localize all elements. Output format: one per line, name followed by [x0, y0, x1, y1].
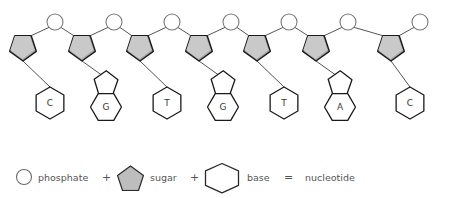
base-shape: C: [36, 87, 64, 119]
phosphate-circle: [106, 14, 122, 30]
legend-phosphate-icon: [17, 170, 32, 185]
legend-base-icon: [206, 164, 239, 193]
phosphate-circle: [223, 14, 239, 30]
legend-sugar-label: sugar: [150, 172, 177, 183]
base-letter: A: [337, 102, 344, 112]
base-letter: T: [280, 98, 287, 108]
base-shape: T: [153, 87, 181, 119]
nucleotide-unit: G: [69, 14, 132, 120]
legend-plus-two: +: [190, 171, 199, 184]
nucleotide-unit: C: [10, 14, 74, 119]
bond-sugar-to-base: [391, 61, 410, 87]
base-letter: C: [47, 98, 53, 108]
bond-phosphate-to-sugar: [61, 27, 74, 35]
base-shape: C: [396, 87, 424, 119]
nucleotide-chain-diagram: CGTGTAC phosphate + sugar + base = nucle…: [0, 0, 452, 198]
base-pentagon-ring: [211, 71, 235, 94]
phosphate-circle: [412, 14, 428, 30]
bond-phosphate-to-sugar: [237, 27, 249, 35]
phosphate-circle: [340, 14, 356, 30]
bond-sugar-to-phosphate: [399, 27, 414, 35]
nucleotide-unit: T: [127, 14, 191, 119]
legend-nucleotide-label: nucleotide: [305, 172, 355, 183]
base-pentagon-ring: [94, 71, 118, 94]
base-shape: T: [270, 87, 298, 119]
base-pentagon-ring: [328, 71, 352, 94]
bond-phosphate-to-sugar: [120, 27, 132, 35]
base-letter: C: [407, 98, 413, 108]
bond-sugar-to-phosphate: [324, 27, 342, 35]
legend-equals-sign: =: [284, 171, 293, 184]
legend-phosphate-label: phosphate: [38, 172, 88, 183]
nucleotide-unit: G: [186, 14, 249, 120]
bond-sugar-to-phosphate: [207, 27, 225, 35]
nucleotide-unit: C: [378, 14, 428, 119]
bond-sugar-to-base: [140, 61, 167, 87]
bond-phosphate-to-sugar: [354, 27, 383, 35]
legend: phosphate + sugar + base = nucleotide: [17, 164, 355, 193]
phosphate-circle: [281, 14, 297, 30]
base-letter: T: [163, 98, 170, 108]
bond-sugar-to-phosphate: [265, 27, 283, 35]
diagram-canvas: CGTGTAC phosphate + sugar + base = nucle…: [0, 0, 452, 198]
legend-plus-one: +: [102, 171, 111, 184]
legend-base-label: base: [247, 172, 270, 183]
nucleotide-unit: A: [303, 14, 383, 120]
bond-sugar-to-phosphate: [31, 27, 49, 35]
bond-sugar-to-phosphate: [148, 27, 166, 35]
nucleotide-unit: T: [244, 14, 308, 119]
base-letter: G: [103, 102, 110, 112]
base-letter: G: [220, 102, 227, 112]
phosphate-circle: [47, 14, 63, 30]
base-shape: G: [208, 71, 239, 121]
legend-sugar-icon: [118, 166, 144, 191]
phosphate-circle: [164, 14, 180, 30]
bond-phosphate-to-sugar: [178, 27, 191, 35]
base-shape: G: [91, 71, 122, 121]
bond-sugar-to-base: [257, 61, 284, 87]
bond-sugar-to-phosphate: [90, 27, 108, 35]
bond-sugar-to-base: [23, 61, 50, 87]
base-shape: A: [325, 71, 356, 121]
bond-phosphate-to-sugar: [295, 27, 308, 35]
backbone-chain: CGTGTAC: [10, 14, 428, 120]
